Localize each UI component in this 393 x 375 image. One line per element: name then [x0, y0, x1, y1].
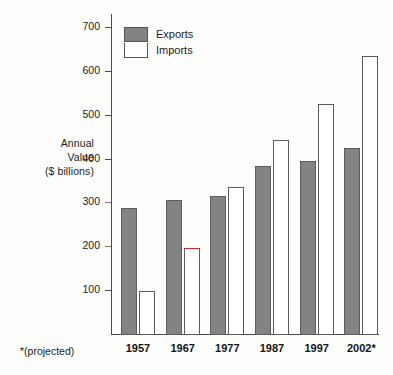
legend: Exports Imports [124, 26, 193, 58]
bar-exports-1987 [255, 166, 271, 335]
y-tick-label-700: 700 [82, 20, 100, 33]
bar-imports-1957 [139, 291, 155, 335]
bar-imports-1997 [318, 104, 334, 335]
legend-item-exports: Exports [124, 26, 193, 42]
bar-exports-1957 [121, 208, 137, 335]
y-axis-title-line-1: Annual [8, 136, 94, 150]
footnote-projected: *(projected) [20, 345, 74, 357]
bar-exports-1977 [210, 196, 226, 335]
y-tick-600: 600 [105, 71, 111, 72]
y-axis-line [111, 14, 112, 335]
y-tick-200: 200 [105, 246, 111, 247]
x-label-1987: 1987 [247, 342, 297, 354]
y-tick-label-200: 200 [82, 239, 100, 252]
y-tick-label-500: 500 [82, 108, 100, 121]
y-tick-label-600: 600 [82, 64, 100, 77]
y-tick-100: 100 [105, 290, 111, 291]
legend-item-imports: Imports [124, 42, 193, 58]
x-label-1977: 1977 [202, 342, 252, 354]
y-tick-label-400: 400 [82, 152, 100, 165]
y-axis-title-line-3: ($ billions) [8, 164, 94, 178]
bar-exports-1967 [166, 200, 182, 335]
legend-swatch-exports [124, 27, 148, 42]
y-tick-label-300: 300 [82, 195, 100, 208]
y-tick-400: 400 [105, 159, 111, 160]
y-tick-500: 500 [105, 115, 111, 116]
x-label-1967: 1967 [158, 342, 208, 354]
legend-swatch-imports [124, 43, 148, 58]
bar-imports-1977 [228, 187, 244, 335]
bar-exports-1997 [300, 161, 316, 335]
bar-imports-2002 [362, 56, 378, 335]
y-tick-label-100: 100 [82, 283, 100, 296]
y-tick-700: 700 [105, 27, 111, 28]
y-axis-title: Annual Value ($ billions) [8, 136, 94, 178]
bar-imports-1987 [273, 140, 289, 335]
legend-label-imports: Imports [156, 44, 193, 57]
legend-label-exports: Exports [156, 28, 193, 41]
x-label-1997: 1997 [292, 342, 342, 354]
plot-area: 100200300400500600700 195719671977198719… [111, 14, 379, 335]
x-label-2002: 2002* [336, 342, 386, 354]
x-label-1957: 1957 [113, 342, 163, 354]
bar-imports-1967 [184, 248, 200, 335]
y-tick-300: 300 [105, 202, 111, 203]
y-axis-title-line-2: Value [8, 150, 94, 164]
bar-exports-2002 [344, 148, 360, 335]
bar-chart: Annual Value ($ billions) 10020030040050… [0, 0, 393, 375]
